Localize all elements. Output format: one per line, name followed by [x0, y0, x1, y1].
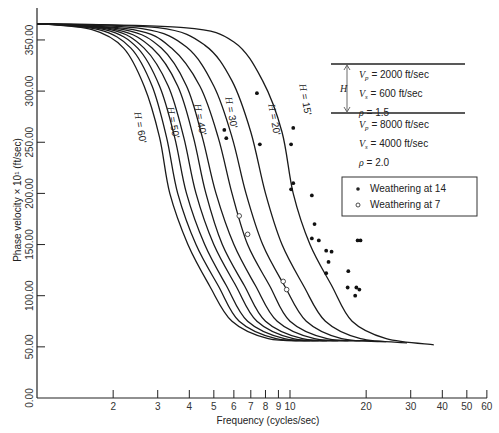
data-point-weathering-14: [310, 194, 314, 198]
data-point-weathering-7: [245, 232, 250, 237]
half-space-properties: Vp = 8000 ft/secVs = 4000 ft/secρ = 2.0: [358, 119, 429, 168]
data-point-weathering-14: [291, 181, 295, 185]
data-point-weathering-14: [258, 142, 262, 146]
data-point-weathering-14: [346, 269, 350, 273]
x-tick-label: 8: [263, 401, 269, 412]
data-point-weathering-14: [359, 239, 363, 243]
y-tick-label: 100.00: [24, 280, 35, 311]
legend: Weathering at 14 Weathering at 7: [342, 177, 477, 216]
layer-property: ρ = 1.5: [358, 107, 390, 118]
data-point-weathering-14: [324, 249, 328, 253]
data-point-weathering-14: [291, 126, 295, 130]
data-point-weathering-14: [255, 91, 259, 95]
layer-thickness-label: H: [339, 83, 348, 94]
upper-layer-properties: Vp = 2000 ft/secVs = 600 ft/secρ = 1.5: [358, 69, 429, 118]
curve-label: H = 30': [223, 95, 240, 129]
layer-model-diagram: H Vp = 2000 ft/secVs = 600 ft/secρ = 1.5…: [331, 64, 465, 168]
data-point-weathering-7: [281, 279, 286, 284]
data-point-weathering-14: [317, 239, 321, 243]
layer-property: Vs = 4000 ft/sec: [359, 138, 428, 151]
x-tick-label: 10: [284, 401, 296, 412]
dispersion-curve: [37, 24, 386, 342]
x-tick-label: 50: [461, 401, 473, 412]
y-tick-label: 300.00: [24, 75, 35, 106]
data-point-weathering-14: [289, 187, 293, 191]
x-tick-label: 30: [405, 401, 417, 412]
data-point-weathering-14: [313, 222, 317, 226]
data-point-weathering-14: [353, 294, 357, 298]
dispersion-curve: [37, 24, 361, 341]
curve-label: H = 40': [192, 102, 209, 136]
data-point-weathering-14: [224, 136, 228, 140]
x-tick-label: 4: [187, 401, 193, 412]
x-tick-label: 5: [211, 401, 217, 412]
x-axis-title: Frequency (cycles/sec): [217, 415, 320, 426]
dispersion-curve: [37, 24, 372, 341]
layer-property: ρ = 2.0: [358, 157, 390, 168]
y-tick-label: 250.00: [24, 127, 35, 158]
data-point-weathering-14: [330, 250, 334, 254]
layer-property: Vp = 8000 ft/sec: [359, 119, 429, 132]
data-point-weathering-7: [284, 287, 289, 292]
data-point-weathering-14: [346, 286, 350, 290]
layer-property: Vp = 2000 ft/sec: [359, 69, 429, 82]
y-tick-label: 200.00: [24, 178, 35, 209]
x-tick-label: 2: [110, 401, 116, 412]
data-point-weathering-7: [237, 214, 242, 219]
data-point-weathering-14: [324, 271, 328, 275]
data-point-weathering-14: [327, 260, 331, 264]
dispersion-curve: [37, 24, 319, 341]
curve-label: H = 15': [297, 82, 314, 116]
y-tick-label: 350.00: [24, 24, 35, 55]
curve-label: H = 60': [132, 110, 149, 144]
filled-dot-icon: [356, 187, 360, 191]
y-axis-title: Phase velocity × 10¹ (ft/sec): [12, 138, 23, 262]
data-point-weathering-14: [289, 142, 293, 146]
y-tick-label: 150.00: [24, 229, 35, 260]
layer-property: Vs = 600 ft/sec: [359, 88, 423, 101]
x-tick-label: 7: [248, 401, 254, 412]
dispersion-curve: [37, 24, 310, 341]
dispersion-chart: 0.0050.00100.00150.00200.00250.00300.003…: [0, 0, 499, 433]
x-tick-label: 9: [276, 401, 282, 412]
dispersion-curve: [37, 24, 327, 341]
data-point-weathering-14: [310, 237, 314, 241]
data-point-weathering-14: [357, 288, 361, 292]
y-tick-label: 50.00: [24, 334, 35, 359]
x-tick-label: 6: [231, 401, 237, 412]
data-point-weathering-14: [222, 128, 226, 132]
y-tick-label: 0.00: [24, 388, 35, 408]
curve-label: H = 20': [266, 102, 283, 136]
curve-label: H = 50': [165, 105, 182, 139]
legend-filled-label: Weathering at 14: [370, 183, 446, 194]
x-tick-label: 3: [155, 401, 161, 412]
x-tick-label: 20: [361, 401, 373, 412]
x-tick-label: 60: [481, 401, 493, 412]
legend-open-label: Weathering at 7: [370, 199, 441, 210]
x-tick-label: 40: [437, 401, 449, 412]
